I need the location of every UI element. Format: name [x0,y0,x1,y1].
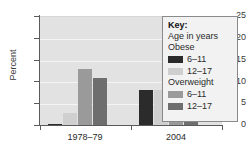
legend-item-label: 12–17 [187,101,212,112]
x-tick-label: 1978–79 [55,132,115,142]
chart-root: 25 20 15 10 5 0 Percent 1978–79 2004 Key… [0,0,246,168]
x-tick [131,126,132,130]
legend-item: 6–11 [168,88,233,100]
y-axis-line [39,15,40,126]
x-tick [40,126,41,130]
y-tick [34,60,39,61]
legend-group-heading: Overweight [168,77,233,88]
x-tick-label: 2004 [146,132,206,142]
legend-body: Obese6–1112–17Overweight6–1112–17 [168,42,233,112]
legend-item: 12–17 [168,65,233,77]
legend-item-label: 6–11 [187,89,206,100]
y-axis-title: Percent [8,35,18,95]
legend-swatch-icon [168,91,183,98]
legend-item: 12–17 [168,100,233,112]
legend-item-label: 12–17 [187,66,212,77]
legend-group-heading: Obese [168,42,233,53]
legend-item-label: 6–11 [187,54,206,65]
y-tick [34,16,39,17]
y-tick [34,125,39,126]
y-tick [34,103,39,104]
legend-swatch-icon [168,68,183,75]
bar [93,78,107,126]
legend-item: 6–11 [168,53,233,65]
y-tick [34,81,39,82]
bar [78,69,92,126]
x-tick [222,126,223,130]
y-tick [34,38,39,39]
legend: Key: Age in years Obese6–1112–17Overweig… [162,16,238,122]
bar [139,90,153,126]
legend-swatch-icon [168,56,183,63]
legend-title: Key: [168,20,233,31]
legend-subtitle: Age in years [168,31,233,42]
legend-swatch-icon [168,103,183,110]
